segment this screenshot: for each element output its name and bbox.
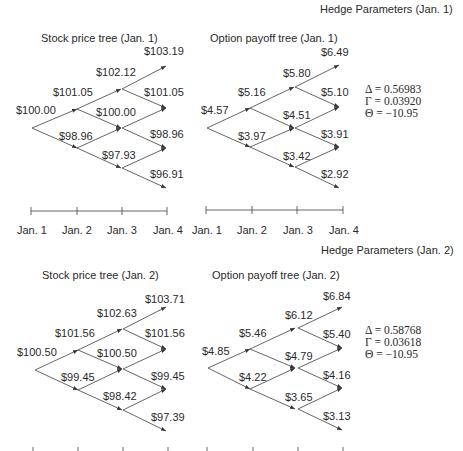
stock2-node-3-3: $97.39 — [151, 411, 185, 423]
option-node-1-0: $5.16 — [238, 86, 266, 98]
axis-label-option-jan4: Jan. 4 — [329, 224, 359, 236]
option-node-3-0: $6.49 — [321, 46, 349, 58]
axis-label-stock-jan3: Jan. 3 — [107, 224, 137, 236]
option-node-2-2: $3.42 — [283, 150, 311, 162]
stock2-node-2-0: $102.63 — [97, 307, 137, 319]
stock2-node-2-2: $98.42 — [103, 390, 137, 402]
stock2-node-1-1: $99.45 — [61, 371, 95, 383]
axis-label-stock-jan1: Jan. 1 — [17, 224, 47, 236]
time-axis-bottom — [33, 447, 343, 451]
stock-node-3-3: $96.91 — [150, 168, 184, 180]
stock2-node-3-1: $101.56 — [145, 327, 185, 339]
stock-node-2-2: $97.93 — [102, 149, 136, 161]
stock2-node-1-0: $101.56 — [55, 327, 95, 339]
stock2-node-3-2: $99.45 — [151, 370, 185, 382]
stock-node-1-1: $98.96 — [59, 130, 93, 142]
option-node-1-1: $3.97 — [238, 130, 266, 142]
option2-node-3-1: $5.40 — [323, 328, 351, 340]
option2-node-2-1: $4.79 — [285, 350, 313, 362]
option2-node-2-0: $6.12 — [285, 309, 313, 321]
stock-node-3-2: $98.96 — [150, 128, 184, 140]
axis-label-stock-jan2: Jan. 2 — [62, 224, 92, 236]
option2-node-2-2: $3.65 — [285, 391, 313, 403]
stock-node-3-1: $101.05 — [144, 86, 184, 98]
stock-node-3-0: $103.19 — [144, 45, 184, 57]
theta-value-jan2: Θ = −10.95 — [365, 348, 418, 360]
axis-label-option-jan2: Jan. 2 — [237, 224, 267, 236]
stock-node-2-0: $102.12 — [96, 66, 136, 78]
gamma-value-jan2: Γ = 0.03618 — [365, 336, 421, 348]
option-node-3-2: $3.91 — [321, 128, 349, 140]
stock-tree-title-jan2: Stock price tree (Jan. 2) — [42, 269, 159, 281]
option-node-2-0: $5.80 — [283, 67, 311, 79]
stock2-node-2-1: $100.50 — [97, 347, 137, 359]
stock2-node-0-0: $100.50 — [17, 346, 57, 358]
option-tree-title-jan1: Option payoff tree (Jan. 1) — [210, 32, 338, 44]
delta-value-jan1: Δ = 0.56983 — [365, 83, 421, 95]
axis-label-option-jan3: Jan. 3 — [283, 224, 313, 236]
stock-node-1-0: $101.05 — [53, 86, 93, 98]
gamma-value-jan1: Γ = 0.03920 — [365, 95, 421, 107]
stock-node-2-1: $100.00 — [96, 106, 136, 118]
option-tree-title-jan2: Option payoff tree (Jan. 2) — [212, 269, 340, 281]
stock-tree-title-jan1: Stock price tree (Jan. 1) — [41, 32, 158, 44]
delta-value-jan2: Δ = 0.58768 — [365, 324, 421, 336]
option-node-3-3: $2.92 — [321, 168, 349, 180]
option-node-3-1: $5.10 — [321, 86, 349, 98]
option-node-2-1: $4.51 — [283, 109, 311, 121]
time-axis-top — [31, 206, 343, 215]
option2-node-1-0: $5.46 — [239, 327, 267, 339]
axis-label-stock-jan4: Jan. 4 — [153, 224, 183, 236]
option2-node-3-3: $3.13 — [323, 410, 351, 422]
option2-node-3-0: $6.84 — [323, 290, 351, 302]
hedge-parameters-title-jan1: Hedge Parameters (Jan. 1) — [320, 3, 453, 15]
option2-node-0-0: $4.85 — [202, 345, 230, 357]
option2-node-3-2: $4.16 — [323, 369, 351, 381]
option2-node-1-1: $4.22 — [239, 371, 267, 383]
option-node-0-0: $4.57 — [201, 104, 229, 116]
theta-value-jan1: Θ = −10.95 — [365, 107, 418, 119]
axis-label-option-jan1: Jan. 1 — [192, 224, 222, 236]
stock-node-0-0: $100.00 — [16, 104, 56, 116]
stock2-node-3-0: $103.71 — [145, 293, 185, 305]
hedge-parameters-title-jan2: Hedge Parameters (Jan. 2) — [321, 244, 454, 256]
